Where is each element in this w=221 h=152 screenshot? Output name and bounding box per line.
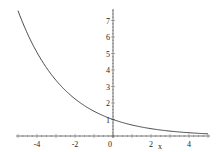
y-tick-label: 3 [106, 83, 110, 92]
x-tick-label: 2 [149, 140, 153, 149]
axes [16, 9, 210, 138]
x-axis-label: x [158, 142, 162, 151]
y-tick-label: 2 [106, 99, 110, 108]
y-tick-label: 5 [106, 50, 110, 59]
y-tick-label: 4 [106, 66, 110, 75]
y-tick-label: 1 [106, 116, 110, 125]
y-tick-label: 6 [106, 33, 110, 42]
x-tick-label: -4 [34, 140, 41, 149]
x-tick-label: 0 [108, 140, 112, 149]
chart: -4-20241234567x [0, 0, 221, 152]
y-tick-label: 7 [106, 17, 110, 26]
x-tick-label: -2 [72, 140, 79, 149]
x-tick-label: 4 [187, 140, 191, 149]
